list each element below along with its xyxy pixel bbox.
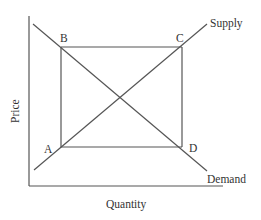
supply-demand-diagram: B C A D Supply Demand Quantity Price: [0, 0, 261, 220]
point-label-b: B: [60, 32, 68, 44]
point-label-a: A: [44, 143, 53, 155]
demand-label: Demand: [207, 173, 246, 185]
point-label-d: D: [189, 142, 197, 154]
point-label-c: C: [176, 32, 184, 44]
supply-curve: [34, 24, 207, 170]
y-axis-label: Price: [9, 99, 21, 123]
x-axis-label: Quantity: [106, 198, 146, 211]
supply-label: Supply: [210, 17, 243, 30]
